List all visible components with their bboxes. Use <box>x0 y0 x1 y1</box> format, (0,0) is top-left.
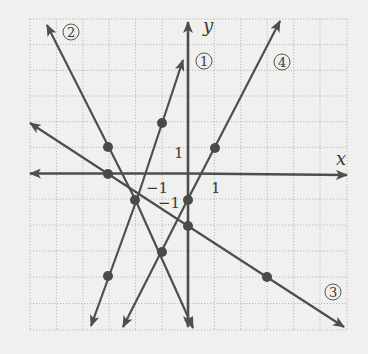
point <box>157 247 167 257</box>
line-label-2: 2 <box>63 24 79 40</box>
point <box>130 195 140 205</box>
coordinate-plane: x y 1 −1 1 −1 1 2 3 4 <box>0 0 368 354</box>
point <box>210 143 220 153</box>
point <box>103 169 113 179</box>
y-tick-neg1: −1 <box>158 194 180 212</box>
y-tick-1: 1 <box>174 144 184 162</box>
line-label-1: 1 <box>196 53 212 69</box>
svg-text:1: 1 <box>200 54 208 69</box>
point <box>103 142 113 152</box>
y-axis-label: y <box>202 15 214 36</box>
point <box>183 195 193 205</box>
svg-text:3: 3 <box>329 285 337 300</box>
x-axis-positive <box>188 174 347 176</box>
x-axis-label: x <box>336 148 346 169</box>
x-tick-1: 1 <box>211 179 221 197</box>
point <box>157 118 167 128</box>
point <box>103 271 113 281</box>
svg-text:4: 4 <box>278 55 286 70</box>
line-label-4: 4 <box>274 54 290 70</box>
line-label-3: 3 <box>325 284 341 300</box>
point <box>262 272 272 282</box>
point <box>183 221 193 231</box>
svg-text:2: 2 <box>67 25 75 40</box>
